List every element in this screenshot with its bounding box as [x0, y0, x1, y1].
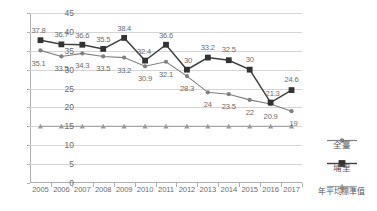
x-axis-tick-label: 2017 [278, 186, 306, 194]
y-axis-tick-mark [27, 107, 30, 108]
data-label: 21.3 [266, 90, 280, 98]
legend-label-puli: 埔里 [306, 163, 377, 174]
data-label: 22 [246, 109, 254, 117]
legend-item-standard-value[interactable]: 年平均標準值 [306, 177, 377, 197]
data-point-marker [121, 35, 127, 41]
data-point-marker [142, 58, 148, 64]
chart-legend: 全臺 埔里 年平均標準值 [306, 131, 377, 200]
legend-marker-square-icon [325, 154, 359, 163]
y-axis-tick-label: 20 [52, 103, 74, 112]
y-axis-tick-label: 45 [52, 9, 74, 18]
y-axis-tick-label: 15 [52, 122, 74, 131]
data-point-marker [206, 90, 210, 94]
y-axis-tick-mark [27, 13, 30, 14]
legend-label-all-taiwan: 全臺 [306, 140, 377, 151]
data-point-marker [164, 60, 168, 64]
y-axis-tick-label: 35 [52, 47, 74, 56]
legend-marker-triangle-icon [325, 177, 359, 186]
data-point-marker [38, 37, 44, 43]
data-label: 33.2 [201, 44, 215, 52]
data-label: 35.5 [96, 36, 110, 44]
data-label: 34.3 [75, 62, 89, 70]
data-point-marker [248, 98, 252, 102]
data-point-marker [289, 87, 295, 93]
y-axis-tick-mark [27, 145, 30, 146]
y-axis-tick-mark [27, 32, 30, 33]
y-axis-tick-label: 5 [52, 160, 74, 169]
y-axis-tick-mark [27, 51, 30, 52]
plot-area: 35.133.534.333.533.230.932.128.32423.522… [30, 13, 302, 183]
y-axis-tick-mark [27, 183, 30, 184]
data-label: 19 [290, 120, 298, 128]
y-axis-tick-mark [27, 89, 30, 90]
data-label: 20.9 [264, 113, 278, 121]
data-point-marker [268, 100, 274, 106]
data-label: 36.6 [75, 32, 89, 40]
y-axis-tick-mark [27, 70, 30, 71]
data-label: 28.3 [180, 85, 194, 93]
y-axis-tick-label: 40 [52, 28, 74, 37]
line-chart: 35.133.534.333.533.230.932.128.32423.522… [0, 0, 377, 211]
y-axis-tick-mark [27, 164, 30, 165]
data-point-marker [163, 42, 169, 48]
series-line-0 [40, 50, 291, 111]
data-label: 23.5 [222, 103, 236, 111]
data-point-marker [80, 51, 84, 55]
data-point-marker [101, 54, 105, 58]
data-point-marker [143, 64, 147, 68]
legend-label-standard-value: 年平均標準值 [306, 186, 377, 197]
y-axis-tick-mark [27, 126, 30, 127]
data-label: 36.6 [159, 32, 173, 40]
y-axis-tick-label: 30 [52, 66, 74, 75]
data-point-marker [205, 55, 211, 61]
legend-item-puli[interactable]: 埔里 [306, 154, 377, 174]
legend-item-all-taiwan[interactable]: 全臺 [306, 131, 377, 151]
data-point-marker [226, 57, 232, 63]
data-point-marker [185, 74, 189, 78]
data-label: 24.6 [285, 76, 299, 84]
data-label: 30.9 [138, 75, 152, 83]
data-label: 35.1 [31, 60, 45, 68]
data-label: 37.8 [31, 27, 45, 35]
y-axis-tick-label: 25 [52, 85, 74, 94]
data-label: 24 [204, 101, 212, 109]
data-label: 32.4 [137, 48, 151, 56]
data-label: 33.5 [96, 65, 110, 73]
data-label: 32.1 [159, 71, 173, 79]
data-point-marker [184, 67, 190, 73]
data-label: 30 [246, 56, 254, 64]
data-label: 33.2 [117, 67, 131, 75]
data-label: 32.5 [222, 46, 236, 54]
data-point-marker [100, 46, 106, 52]
legend-marker-circle-icon [325, 131, 359, 140]
data-point-marker [247, 67, 253, 73]
data-point-marker [227, 92, 231, 96]
data-label: 38.4 [117, 25, 131, 33]
data-label: 30 [184, 57, 192, 65]
data-point-marker [289, 109, 293, 113]
x-axis-tick-mark [302, 183, 303, 187]
data-point-marker [79, 42, 85, 48]
y-axis-tick-label: 10 [52, 141, 74, 150]
data-point-marker [38, 48, 42, 52]
data-point-marker [122, 55, 126, 59]
